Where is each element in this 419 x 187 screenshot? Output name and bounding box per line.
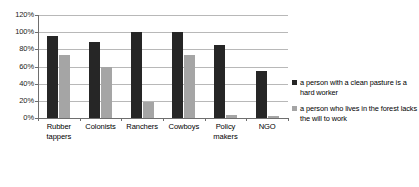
x-category-label: Colonists <box>80 122 122 132</box>
bar <box>256 71 267 118</box>
legend-label: a person who lives in the forest lacks t… <box>300 104 418 123</box>
bar <box>89 42 100 118</box>
legend-swatch-icon <box>292 106 297 111</box>
y-tick-mark <box>35 67 38 68</box>
y-tick-mark <box>35 49 38 50</box>
chart-legend: a person with a clean pasture is a hard … <box>292 78 418 130</box>
x-tick-mark <box>288 118 289 121</box>
x-category-label: NGO <box>246 122 288 132</box>
x-tick-mark <box>38 118 39 121</box>
x-category-label: Ranchers <box>121 122 163 132</box>
bar <box>101 67 112 118</box>
y-tick-mark <box>35 32 38 33</box>
bar <box>47 36 58 118</box>
legend-swatch-icon <box>292 80 297 85</box>
y-tick-label: 40% <box>2 80 34 88</box>
bar <box>172 32 183 118</box>
y-axis-tick-labels: 120%100%80%60%40%20%0% <box>0 0 34 187</box>
x-category-label: Rubbertappers <box>38 122 80 142</box>
bar <box>184 55 195 118</box>
bar-chart: 120%100%80%60%40%20%0% RubbertappersColo… <box>0 0 419 187</box>
bar <box>131 32 142 118</box>
bar <box>59 55 70 118</box>
y-tick-label: 120% <box>2 11 34 19</box>
y-tick-label: 20% <box>2 97 34 105</box>
legend-label: a person with a clean pasture is a hard … <box>300 78 418 97</box>
bar-group <box>38 15 80 118</box>
y-tick-label: 60% <box>2 63 34 71</box>
x-tick-mark <box>205 118 206 121</box>
legend-item[interactable]: a person with a clean pasture is a hard … <box>292 78 418 97</box>
y-tick-mark <box>35 101 38 102</box>
y-axis-line <box>38 15 39 119</box>
bar-group <box>121 15 163 118</box>
bar-group <box>246 15 288 118</box>
y-tick-label: 80% <box>2 45 34 53</box>
x-tick-mark <box>80 118 81 121</box>
x-tick-mark <box>246 118 247 121</box>
plot-area <box>38 15 288 118</box>
y-tick-mark <box>35 15 38 16</box>
y-tick-label: 0% <box>2 114 34 122</box>
x-tick-mark <box>121 118 122 121</box>
y-tick-mark <box>35 84 38 85</box>
bar-group <box>205 15 247 118</box>
x-tick-mark <box>163 118 164 121</box>
bar-group <box>163 15 205 118</box>
bar <box>214 45 225 118</box>
y-tick-label: 100% <box>2 28 34 36</box>
x-category-label: Policymakers <box>205 122 247 142</box>
x-axis-category-labels: RubbertappersColonistsRanchersCowboysPol… <box>38 122 288 162</box>
bar <box>143 102 154 118</box>
x-category-label: Cowboys <box>163 122 205 132</box>
bar-group <box>80 15 122 118</box>
legend-item[interactable]: a person who lives in the forest lacks t… <box>292 104 418 123</box>
